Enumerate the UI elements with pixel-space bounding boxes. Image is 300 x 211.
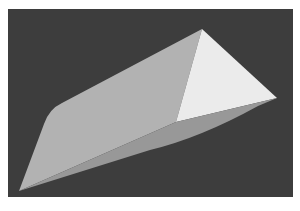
image-frame <box>0 0 300 211</box>
top-face <box>19 29 202 191</box>
wedge-render <box>0 0 300 211</box>
